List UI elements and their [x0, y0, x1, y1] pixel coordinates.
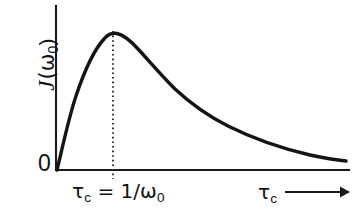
- x-direction-arrow-head: [340, 187, 350, 198]
- origin-label: 0: [38, 152, 51, 175]
- y-axis-label-close: ): [35, 39, 58, 46]
- spectral-density-curve: [57, 33, 346, 170]
- y-axis-label-symbol: J: [34, 79, 59, 90]
- peak-tau-symbol: τ: [72, 179, 84, 203]
- peak-tau-subscript: c: [84, 190, 91, 205]
- y-axis-label-open: (ω: [35, 54, 59, 80]
- x-axis-tau-symbol: τ: [258, 180, 270, 204]
- peak-value-label: τc = 1/ω0: [72, 181, 164, 204]
- y-axis-label-subscript: 0: [45, 46, 61, 54]
- spectral-density-figure: J(ω0) 0 τc = 1/ω0 τc: [0, 0, 357, 215]
- x-axis-label: τc: [258, 182, 277, 205]
- x-axis-tau-subscript: c: [270, 191, 277, 206]
- peak-omega-subscript: 0: [157, 190, 165, 205]
- y-axis-label: J(ω0): [35, 13, 60, 117]
- peak-equals-expression: = 1/ω: [91, 179, 157, 203]
